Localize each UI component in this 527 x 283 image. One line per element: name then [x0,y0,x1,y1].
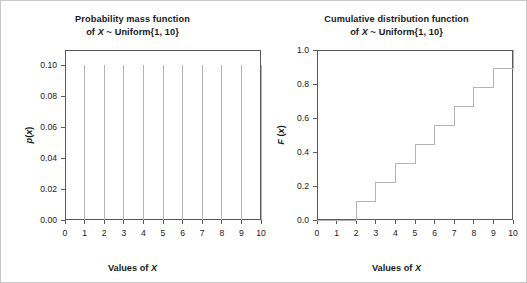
pmf-xtick-label: 8 [219,228,224,238]
cdf-ytick-label: 0.8 [277,79,309,89]
pmf-ylabel-paren-close: ) [24,127,34,130]
pmf-xlabel-variable: X [151,263,157,273]
cdf-ytick-label: 1.0 [277,45,309,55]
cdf-y-axis-title: F (x) [276,125,286,144]
cdf-xtick-label: 8 [471,228,476,238]
pmf-xtick-label: 1 [82,228,87,238]
cdf-xtick-label: 2 [354,228,359,238]
cdf-xtick-label: 6 [432,228,437,238]
cdf-xtick-label: 10 [508,228,518,238]
pmf-x-axis-title: Values of X [1,263,264,273]
cdf-ylabel-paren-open: ( [276,133,286,139]
cdf-xtick-label: 7 [452,228,457,238]
figure-container: Probability mass function of X ~ Uniform… [0,0,527,283]
pmf-ytick-label: 0.10 [25,60,57,70]
cdf-ytick-label: 0.2 [277,181,309,191]
pmf-ytick-label: 0.02 [25,184,57,194]
cdf-xtick-label: 5 [413,228,418,238]
cdf-ylabel-prefix: F [276,139,286,145]
pmf-y-axis-title: p(x) [24,127,34,144]
pmf-ytick-label: 0.00 [25,215,57,225]
panel-pmf: Probability mass function of X ~ Uniform… [1,1,264,283]
cdf-ytick-label: 0.6 [277,113,309,123]
pmf-xtick-label: 3 [121,228,126,238]
pmf-ytick-label: 0.04 [25,153,57,163]
cdf-data-layer [265,1,527,283]
pmf-xtick-label: 5 [161,228,166,238]
pmf-xtick-label: 6 [180,228,185,238]
cdf-xlabel-variable: X [415,263,421,273]
cdf-ylabel-paren-close: ) [276,125,286,128]
cdf-ylabel-variable: x [276,128,286,133]
pmf-xtick-label: 9 [239,228,244,238]
pmf-xlabel-prefix: Values of [108,263,151,273]
pmf-ylabel-variable: x [24,130,34,135]
cdf-x-axis-title: Values of X [265,263,527,273]
cdf-xtick-label: 9 [491,228,496,238]
cdf-ytick-label: 0.0 [277,215,309,225]
pmf-data-layer [1,1,264,283]
cdf-xtick-label: 0 [315,228,320,238]
pmf-xtick-label: 0 [63,228,68,238]
cdf-ytick-label: 0.4 [277,147,309,157]
cdf-xlabel-prefix: Values of [372,263,415,273]
cdf-xtick-label: 4 [393,228,398,238]
pmf-ylabel-paren-open: ( [24,135,34,138]
pmf-xtick-label: 2 [102,228,107,238]
pmf-ylabel-prefix: p [24,138,34,144]
panel-cdf: Cumulative distribution function of X ~ … [265,1,527,283]
cdf-xtick-label: 1 [334,228,339,238]
pmf-xtick-label: 4 [141,228,146,238]
pmf-xtick-label: 7 [200,228,205,238]
pmf-ytick-label: 0.08 [25,91,57,101]
cdf-xtick-label: 3 [373,228,378,238]
